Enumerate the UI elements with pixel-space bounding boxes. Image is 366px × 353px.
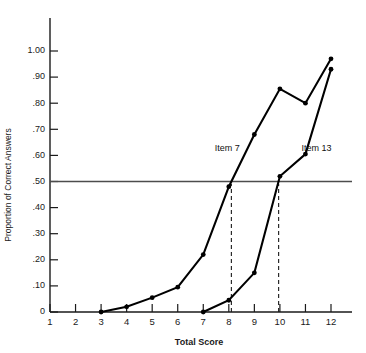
x-axis-tick-label: 3 (98, 316, 103, 327)
y-axis-tick-labels: 0.10.20.30.40.50.60.70.80.901.00 (27, 45, 45, 316)
y-axis-tick-label: .10 (32, 280, 45, 290)
x-axis-tick-label: 1 (47, 316, 52, 327)
data-point-item-13-12 (329, 67, 334, 72)
x-axis-tick-label: 9 (252, 316, 257, 327)
data-point-item-7-6 (175, 285, 180, 290)
y-axis-tick-label: .60 (32, 150, 45, 160)
data-point-item-7-7 (201, 252, 206, 257)
item-characteristic-curve-chart: 0.10.20.30.40.50.60.70.80.901.00 1234567… (0, 0, 366, 353)
x-axis-tick-label: 4 (124, 316, 129, 327)
data-point-item-7-11 (303, 101, 308, 106)
data-point-item-13-10 (278, 174, 283, 179)
y-axis-tick-label: .20 (32, 254, 45, 264)
data-point-item-7-12 (329, 56, 334, 61)
series-label-item-13: Item 13 (302, 143, 332, 153)
x-axis-title: Total Score (175, 337, 223, 347)
x-axis-tick-label: 8 (226, 316, 231, 327)
data-series-group (99, 56, 334, 314)
y-axis-tick-label: .80 (32, 98, 45, 108)
data-point-item-7-3 (99, 310, 104, 315)
x-axis-group: 123456789101112 (47, 304, 352, 327)
data-point-item-7-4 (124, 304, 129, 309)
series-label-item-7: Item 7 (215, 143, 240, 153)
y-axis-tick-label: 1.00 (27, 45, 45, 55)
data-point-item-13-7 (201, 310, 206, 315)
series-line-item-13 (203, 69, 331, 312)
x-axis-tick-labels: 123456789101112 (47, 316, 336, 327)
y-axis-tick-label: .40 (32, 202, 45, 212)
data-point-item-7-10 (278, 86, 283, 91)
series-line-item-7 (101, 59, 331, 312)
data-point-item-7-8 (226, 184, 231, 189)
y-axis-tick-label: .30 (32, 228, 45, 238)
data-point-item-7-5 (150, 295, 155, 300)
series-label-group: Item 7Item 13 (215, 143, 332, 153)
y-axis-title: Proportion of Correct Answers (3, 128, 13, 241)
dropline-group (231, 184, 278, 312)
y-axis-tick-label: .50 (32, 176, 45, 186)
x-axis-tick-label: 11 (301, 316, 311, 327)
data-point-item-7-9 (252, 132, 257, 137)
y-axis-group: 0.10.20.30.40.50.60.70.80.901.00 (27, 18, 58, 316)
data-point-item-13-9 (252, 270, 257, 275)
y-axis-tick-label: .70 (32, 124, 45, 134)
x-axis-tick-label: 5 (150, 316, 155, 327)
x-axis-tick-label: 6 (175, 316, 180, 327)
x-axis-tick-label: 7 (201, 316, 206, 327)
chart-container: 0.10.20.30.40.50.60.70.80.901.00 1234567… (0, 0, 366, 353)
x-axis-tick-label: 12 (326, 316, 337, 327)
y-axis-tick-label: 0 (40, 306, 45, 316)
x-axis-tick-label: 10 (275, 316, 286, 327)
x-axis-ticks (50, 304, 331, 312)
y-axis-tick-label: .90 (32, 71, 45, 81)
x-axis-tick-label: 2 (73, 316, 78, 327)
data-point-item-13-8 (226, 298, 231, 303)
